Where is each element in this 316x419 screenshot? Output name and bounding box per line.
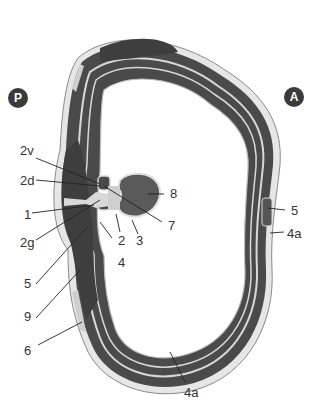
label-4a-right: 4a — [287, 227, 301, 240]
label-4: 4 — [118, 256, 125, 269]
label-3: 3 — [136, 234, 143, 247]
label-5-right: 5 — [291, 204, 298, 217]
body-wall — [54, 39, 280, 394]
trunk-cross-section-illustration — [0, 0, 316, 419]
label-6: 6 — [24, 344, 31, 357]
label-2d: 2d — [20, 174, 34, 187]
label-2: 2 — [118, 234, 125, 247]
label-8: 8 — [170, 187, 177, 200]
label-7: 7 — [168, 219, 175, 232]
label-2g: 2g — [20, 236, 34, 249]
label-9: 9 — [24, 310, 31, 323]
anterior-badge: A — [284, 87, 304, 107]
label-5-left: 5 — [24, 277, 31, 290]
posterior-badge: P — [8, 88, 28, 108]
label-4a-bottom: 4a — [184, 386, 198, 399]
label-1: 1 — [24, 208, 31, 221]
label-2v: 2v — [20, 144, 34, 157]
